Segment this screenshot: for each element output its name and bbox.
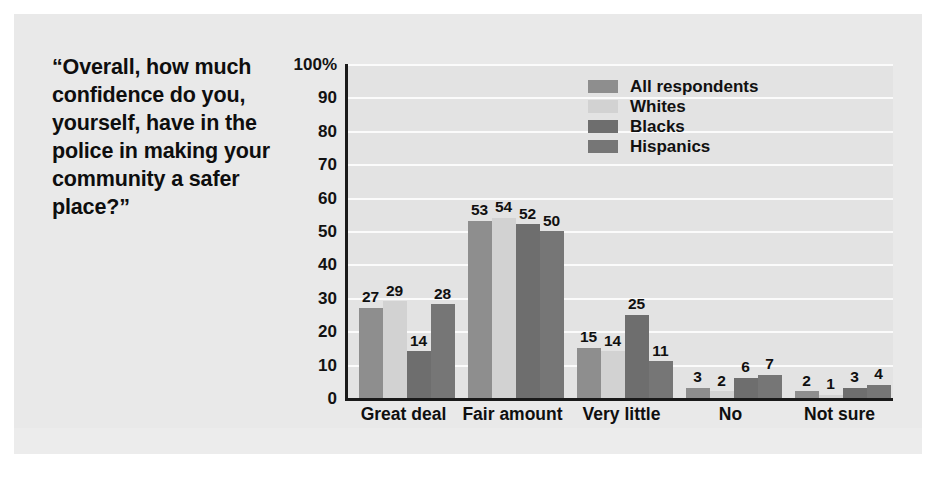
bar <box>383 301 407 398</box>
y-axis-tick: 90 <box>275 89 337 106</box>
y-axis-tick: 100% <box>275 56 337 73</box>
bar-value-label: 54 <box>492 199 516 215</box>
bar-value-label: 2 <box>710 373 734 389</box>
bar-value-label: 53 <box>468 202 492 218</box>
legend-label: All respondents <box>630 78 758 95</box>
bar-value-label: 3 <box>686 369 710 385</box>
bar-value-label: 14 <box>407 333 431 349</box>
bar <box>468 221 492 398</box>
bar-value-label: 14 <box>601 333 625 349</box>
legend-swatch-icon <box>588 100 618 113</box>
bar <box>795 391 819 398</box>
legend-label: Blacks <box>630 118 685 135</box>
y-axis-tick-labels: 100%9080706050403020100 <box>273 64 337 398</box>
chart-question-title: “Overall, how much confidence do you, yo… <box>52 54 284 222</box>
bar-value-label: 27 <box>359 289 383 305</box>
bar <box>819 395 843 398</box>
bar-value-label: 52 <box>516 206 540 222</box>
bar <box>625 315 649 399</box>
bar <box>601 351 625 398</box>
chart-legend: All respondentsWhitesBlacksHispanics <box>588 76 758 156</box>
y-axis-tick: 50 <box>275 223 337 240</box>
legend-item[interactable]: Hispanics <box>588 136 758 156</box>
bar-value-label: 50 <box>540 213 564 229</box>
bar <box>758 375 782 398</box>
bar-group: 53545250 <box>468 64 564 398</box>
legend-item[interactable]: All respondents <box>588 76 758 96</box>
bar <box>734 378 758 398</box>
bar <box>359 308 383 398</box>
y-axis-tick: 40 <box>275 256 337 273</box>
bar-value-label: 1 <box>819 376 843 392</box>
bar <box>710 391 734 398</box>
legend-swatch-icon <box>588 120 618 133</box>
legend-label: Whites <box>630 98 686 115</box>
bar-group: 27291428 <box>359 64 455 398</box>
bar-value-label: 11 <box>649 343 673 359</box>
bar-value-label: 2 <box>795 373 819 389</box>
bar <box>686 388 710 398</box>
legend-label: Hispanics <box>630 138 710 155</box>
legend-item[interactable]: Blacks <box>588 116 758 136</box>
x-axis-label: Not sure <box>765 406 915 424</box>
chart-figure: “Overall, how much confidence do you, yo… <box>14 14 922 454</box>
bar <box>540 231 564 398</box>
bar-value-label: 15 <box>577 329 601 345</box>
bar <box>492 218 516 398</box>
bar-value-label: 7 <box>758 356 782 372</box>
bar <box>407 351 431 398</box>
bar <box>577 348 601 398</box>
bar <box>516 224 540 398</box>
y-axis-tick: 60 <box>275 189 337 206</box>
bar-group: 2134 <box>795 64 891 398</box>
bar <box>843 388 867 398</box>
bar <box>649 361 673 398</box>
bar-value-label: 28 <box>431 286 455 302</box>
y-axis-tick: 10 <box>275 356 337 373</box>
x-axis-category-labels: Great dealFair amountVery littleNoNot su… <box>345 406 893 432</box>
bar <box>867 385 891 398</box>
bar <box>431 304 455 398</box>
y-axis-tick: 80 <box>275 122 337 139</box>
legend-swatch-icon <box>588 80 618 93</box>
legend-swatch-icon <box>588 140 618 153</box>
bar-value-label: 3 <box>843 369 867 385</box>
bar-value-label: 29 <box>383 283 407 299</box>
bar-value-label: 25 <box>625 296 649 312</box>
bar-value-label: 4 <box>867 366 891 382</box>
y-axis-tick: 70 <box>275 156 337 173</box>
y-axis-tick: 30 <box>275 289 337 306</box>
legend-item[interactable]: Whites <box>588 96 758 116</box>
bar-value-label: 6 <box>734 359 758 375</box>
y-axis-tick: 20 <box>275 323 337 340</box>
y-axis-tick: 0 <box>275 390 337 407</box>
